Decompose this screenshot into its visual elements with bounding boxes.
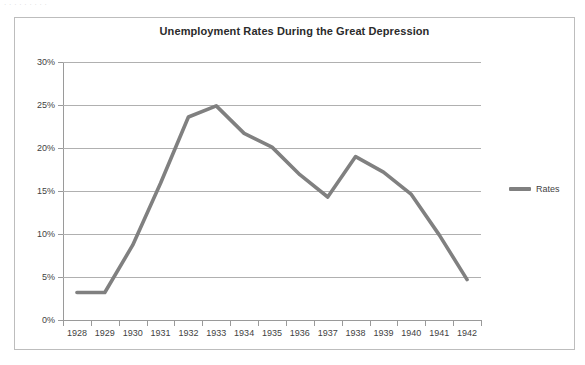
- line-series-rates: [77, 106, 467, 293]
- legend-swatch-rates: [509, 187, 531, 191]
- y-axis-labels: 0%5%10%15%20%25%30%: [15, 18, 55, 351]
- x-axis-tick-label: 1942: [447, 328, 487, 338]
- y-axis-tick-label: 5%: [19, 272, 55, 282]
- chart-legend: Rates: [509, 184, 560, 194]
- x-axis-tick: [286, 321, 287, 326]
- x-axis-tick: [370, 321, 371, 326]
- x-axis-tick: [481, 321, 482, 326]
- x-axis-tick: [230, 321, 231, 326]
- y-axis-tick-label: 0%: [19, 315, 55, 325]
- x-axis-tick: [91, 321, 92, 326]
- x-axis-tick: [258, 321, 259, 326]
- x-axis-tick: [314, 321, 315, 326]
- x-axis-tick: [63, 321, 64, 326]
- series-layer: [63, 62, 481, 320]
- x-axis-tick: [119, 321, 120, 326]
- chart-container: Unemployment Rates During the Great Depr…: [14, 17, 575, 350]
- y-axis-tick-label: 30%: [19, 57, 55, 67]
- scan-edge-artifact: · · · · · · · · ·: [0, 0, 585, 10]
- x-axis-tick: [425, 321, 426, 326]
- y-axis-tick-label: 15%: [19, 186, 55, 196]
- x-axis-tick: [147, 321, 148, 326]
- y-axis-tick-label: 10%: [19, 229, 55, 239]
- plot-area: [63, 62, 481, 320]
- x-axis-tick: [202, 321, 203, 326]
- x-axis-line: [63, 320, 482, 321]
- y-axis-tick-label: 20%: [19, 143, 55, 153]
- chart-title: Unemployment Rates During the Great Depr…: [15, 25, 574, 37]
- y-axis-tick-label: 25%: [19, 100, 55, 110]
- x-axis-tick: [342, 321, 343, 326]
- legend-label-rates: Rates: [536, 184, 560, 194]
- x-axis-tick: [453, 321, 454, 326]
- x-axis-tick: [174, 321, 175, 326]
- x-axis-tick: [397, 321, 398, 326]
